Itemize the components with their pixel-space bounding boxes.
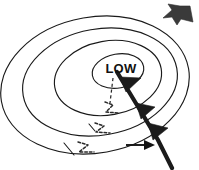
weather-map-canvas <box>0 0 199 170</box>
flow-arrow-dashed-1 <box>105 102 118 113</box>
isobar-group <box>0 2 199 169</box>
isobar-tick-group <box>64 124 95 155</box>
flow-arrow-dashed-3 <box>78 142 94 152</box>
trough-dashed-line <box>110 78 113 103</box>
tick-mark-mid-left <box>89 124 95 131</box>
low-pressure-label: LOW <box>100 62 142 76</box>
cold-front-barb-1 <box>120 77 141 92</box>
cold-front <box>117 72 172 168</box>
weather-diagram-figure: LOW <box>0 0 199 170</box>
corner-flag-arrow <box>163 4 193 25</box>
flow-arrow-dashed-2 <box>95 123 110 133</box>
